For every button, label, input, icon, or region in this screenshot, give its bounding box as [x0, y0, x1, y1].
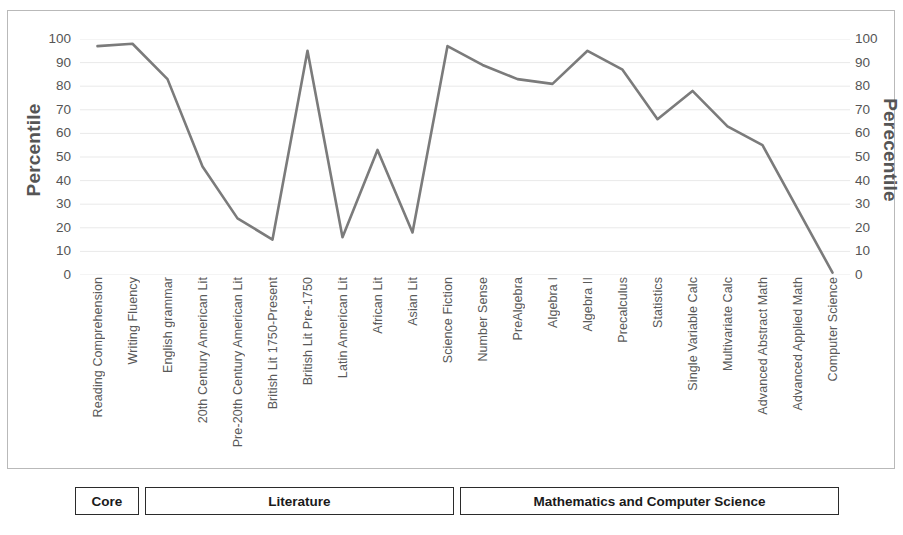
- y-axis-tick-label: 40: [855, 174, 889, 188]
- x-axis-label: Asian Lit: [406, 277, 420, 326]
- y-axis-tick-label: 60: [37, 127, 71, 141]
- x-axis-category-labels: Reading ComprehensionWriting FluencyEngl…: [80, 277, 850, 477]
- x-axis-label: Reading Comprehension: [91, 277, 105, 417]
- x-axis-label: Algebra II: [581, 277, 595, 332]
- x-axis-label: Statistics: [651, 277, 665, 328]
- chart-frame: Percentile Perecentile 10090807060504030…: [7, 10, 895, 469]
- x-axis-label: Multivariate Calc: [721, 277, 735, 371]
- y-axis-tick-label: 100: [37, 32, 71, 46]
- y-axis-ticks-left: 1009080706050403020100: [37, 39, 71, 275]
- y-axis-tick-label: 70: [855, 103, 889, 117]
- x-axis-label: Precalculus: [616, 277, 630, 343]
- x-axis-label: Pre-20th Century American Lit: [231, 277, 245, 447]
- x-axis-label: Latin American Lit: [336, 277, 350, 378]
- y-axis-tick-label: 40: [37, 174, 71, 188]
- chart-screenshot: Percentile Perecentile 10090807060504030…: [0, 0, 903, 535]
- group-label-box: Mathematics and Computer Science: [460, 487, 839, 515]
- y-axis-tick-label: 100: [855, 32, 889, 46]
- x-axis-label: Science Fiction: [441, 277, 455, 363]
- group-band: CoreLiteratureMathematics and Computer S…: [7, 487, 895, 521]
- y-axis-tick-label: 50: [37, 150, 71, 164]
- x-axis-label: Advanced Abstract Math: [756, 277, 770, 415]
- x-axis-label: Advanced Applied Math: [791, 277, 805, 410]
- group-label-box: Literature: [145, 487, 454, 515]
- x-axis-label: British Lit 1750-Present: [266, 277, 280, 409]
- x-axis-label: Algebra I: [546, 277, 560, 328]
- y-axis-tick-label: 30: [855, 197, 889, 211]
- y-axis-tick-label: 70: [37, 103, 71, 117]
- data-series-line: [98, 44, 833, 273]
- group-label-text: Mathematics and Computer Science: [534, 494, 766, 509]
- x-axis-label: PreAlgebra: [511, 277, 525, 341]
- y-axis-tick-label: 20: [855, 221, 889, 235]
- y-axis-tick-label: 80: [855, 79, 889, 93]
- y-axis-ticks-right: 1009080706050403020100: [855, 39, 889, 275]
- x-axis-label: Writing Fluency: [126, 277, 140, 364]
- y-axis-tick-label: 0: [37, 268, 71, 282]
- group-label-text: Core: [92, 494, 123, 509]
- x-axis-label: Number Sense: [476, 277, 490, 362]
- x-axis-label: African Lit: [371, 277, 385, 334]
- x-axis-label: British Lit Pre-1750: [301, 277, 315, 385]
- y-axis-tick-label: 90: [855, 56, 889, 70]
- x-axis-label: 20th Century American Lit: [196, 277, 210, 423]
- y-axis-tick-label: 20: [37, 221, 71, 235]
- y-axis-tick-label: 10: [855, 245, 889, 259]
- y-axis-tick-label: 10: [37, 245, 71, 259]
- y-axis-tick-label: 90: [37, 56, 71, 70]
- group-label-text: Literature: [268, 494, 330, 509]
- line-chart-svg: [80, 39, 850, 275]
- x-axis-label: Single Variable Calc: [686, 277, 700, 391]
- y-axis-tick-label: 0: [855, 268, 889, 282]
- y-axis-tick-label: 50: [855, 150, 889, 164]
- y-axis-tick-label: 30: [37, 197, 71, 211]
- x-axis-label: Computer Science: [826, 277, 840, 381]
- y-axis-tick-label: 80: [37, 79, 71, 93]
- x-axis-label: English grammar: [161, 277, 175, 373]
- y-axis-tick-label: 60: [855, 127, 889, 141]
- plot-area: [80, 39, 850, 275]
- group-label-box: Core: [75, 487, 139, 515]
